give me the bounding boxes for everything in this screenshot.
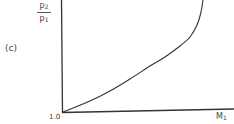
origin-label: 1.0	[49, 114, 60, 121]
y-label-numerator: p2	[37, 1, 51, 11]
chart-plot	[0, 0, 234, 124]
fraction-bar	[37, 12, 51, 13]
data-curve	[63, 0, 203, 112]
y-label-denominator: p1	[37, 14, 51, 24]
panel-label: (c)	[5, 44, 17, 53]
x-axis	[62, 109, 234, 113]
y-axis	[62, 0, 63, 113]
x-axis-label: M1	[216, 113, 227, 121]
y-axis-label: p2 p1	[37, 1, 51, 24]
